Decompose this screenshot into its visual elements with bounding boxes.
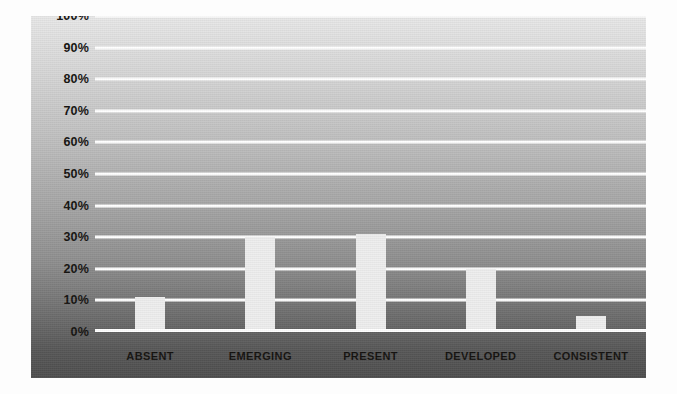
x-axis-tick-label: CONSISTENT <box>536 350 646 362</box>
axis-baseline <box>95 329 646 332</box>
y-axis-tick-label: 0% <box>71 325 89 339</box>
bar-series <box>95 16 646 332</box>
y-axis-tick-label: 100% <box>56 16 89 23</box>
y-axis-tick-label: 30% <box>63 230 89 244</box>
y-axis-tick-label: 60% <box>63 135 89 149</box>
y-axis-tick-label: 50% <box>63 167 89 181</box>
y-axis-tick-label: 10% <box>63 293 89 307</box>
x-axis-tick-label: EMERGING <box>205 350 315 362</box>
bar <box>245 237 275 332</box>
chart-screenshot: 100%90%80%70%60%50%40%30%20%10%0% ABSENT… <box>0 0 677 394</box>
bar-slot <box>536 16 646 332</box>
y-axis-tick-label: 80% <box>63 72 89 86</box>
bar <box>466 269 496 332</box>
y-axis: 100%90%80%70%60%50%40%30%20%10%0% <box>31 16 95 332</box>
bar <box>135 297 165 332</box>
x-axis: ABSENTEMERGINGPRESENTDEVELOPEDCONSISTENT <box>95 334 646 378</box>
bar-slot <box>205 16 315 332</box>
y-axis-tick-label: 70% <box>63 104 89 118</box>
plot-area <box>95 16 646 332</box>
bar <box>356 234 386 332</box>
chart-panel: 100%90%80%70%60%50%40%30%20%10%0% ABSENT… <box>31 16 646 378</box>
y-axis-tick-label: 20% <box>63 262 89 276</box>
bar-slot <box>426 16 536 332</box>
x-axis-tick-label: ABSENT <box>95 350 205 362</box>
bar-slot <box>95 16 205 332</box>
x-axis-tick-label: DEVELOPED <box>426 350 536 362</box>
y-axis-tick-label: 90% <box>63 41 89 55</box>
x-axis-tick-label: PRESENT <box>315 350 425 362</box>
y-axis-tick-label: 40% <box>63 199 89 213</box>
bar-slot <box>315 16 425 332</box>
